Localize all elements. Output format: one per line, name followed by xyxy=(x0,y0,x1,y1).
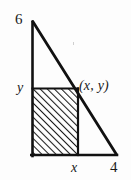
label-y-intercept-6: 6 xyxy=(15,12,23,27)
label-x-intercept-4: 4 xyxy=(110,160,118,175)
label-rect-width-x: x xyxy=(71,161,77,175)
label-rect-height-y: y xyxy=(17,81,23,95)
scan-artifact-speck xyxy=(73,42,74,45)
label-corner-point-xy: (x, y) xyxy=(79,79,109,93)
inscribed-rectangle-fill xyxy=(33,89,79,156)
figure-container: 6 y (x, y) x 4 xyxy=(0,0,131,180)
